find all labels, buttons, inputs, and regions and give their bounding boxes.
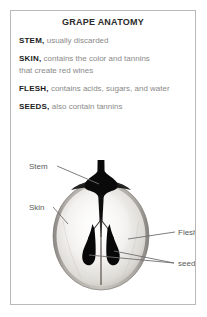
fact-item-skin: SKIN, contains the color and tannins xyxy=(19,55,191,64)
fact-text-skin-continued: that create red wines xyxy=(19,66,93,75)
fact-item-flesh: FLESH, contains acids, sugars, and water xyxy=(19,85,191,94)
fact-term-stem: STEM, xyxy=(19,36,44,45)
fact-text-seeds: also contain tannins xyxy=(50,102,123,111)
fact-item-skin-continued: that create red wines xyxy=(19,67,191,76)
fact-text-stem: usually discarded xyxy=(44,36,108,45)
fact-text-flesh: contains acids, sugars, and water xyxy=(49,84,170,93)
fact-term-flesh: FLESH, xyxy=(19,84,49,93)
label-skin: Skin xyxy=(29,203,45,212)
facts-list: STEM, usually discarded SKIN, contains t… xyxy=(19,37,191,121)
label-seeds: seeds xyxy=(178,259,195,268)
page-title: GRAPE ANATOMY xyxy=(11,17,195,27)
fact-item-stem: STEM, usually discarded xyxy=(19,37,191,46)
leader-line-stem xyxy=(57,166,99,184)
label-flesh: Flesh xyxy=(178,228,195,237)
grape-cross-section-diagram: Stem Skin Flesh seeds xyxy=(11,129,195,304)
grape-anatomy-card: GRAPE ANATOMY STEM, usually discarded SK… xyxy=(10,10,196,305)
fact-item-seeds: SEEDS, also contain tannins xyxy=(19,103,191,112)
fact-term-seeds: SEEDS, xyxy=(19,102,50,111)
fact-text-skin: contains the color and tannins xyxy=(41,54,150,63)
fact-term-skin: SKIN, xyxy=(19,54,41,63)
screenshot-root: GRAPE ANATOMY STEM, usually discarded SK… xyxy=(0,0,207,317)
label-stem: Stem xyxy=(29,162,48,171)
